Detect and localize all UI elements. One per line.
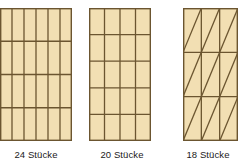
panel-20-stuecke: 20 Stücke [88,0,156,164]
rectangle-grid-4x5-svg [89,8,151,141]
panel-24-stuecke: 24 Stücke [0,0,80,164]
figure-container: 24 Stücke 20 Stücke [0,0,241,164]
panel-18-stuecke: 18 Stücke [175,0,241,164]
caption-18-stuecke: 18 Stücke [175,149,241,161]
divided-rectangle-18 [183,8,238,141]
caption-20-stuecke: 20 Stücke [88,149,156,161]
rectangle-grid-3x3-diagonals-svg [183,8,238,141]
divided-rectangle-24 [0,8,72,141]
rectangle-grid-6x4-svg [0,8,72,141]
divided-rectangle-20 [89,8,151,141]
caption-24-stuecke: 24 Stücke [0,149,72,161]
